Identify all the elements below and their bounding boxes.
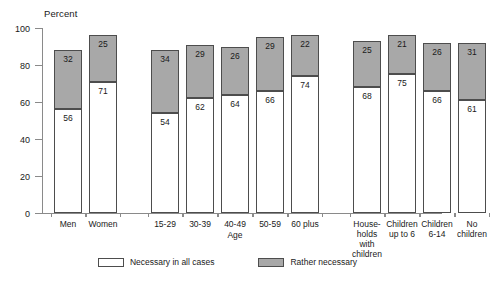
legend-swatch-icon	[258, 258, 284, 267]
bar-value-label: 66	[265, 92, 274, 105]
x-tick	[455, 213, 456, 217]
y-tick: 80	[35, 65, 42, 66]
bar: 6626	[423, 43, 451, 213]
bar-segment-rather-necessary: 32	[54, 50, 82, 109]
bar-segment-rather-necessary: 25	[89, 35, 117, 81]
x-axis-label: 60 plus	[275, 219, 335, 229]
bar: 5632	[54, 50, 82, 213]
x-tick	[183, 213, 184, 217]
bar-segment-necessary-in-all-cases: 56	[54, 109, 82, 213]
bar-segment-rather-necessary: 22	[291, 35, 319, 76]
x-tick	[322, 213, 323, 217]
y-axis-title: Percent	[44, 8, 77, 19]
bar-segment-necessary-in-all-cases: 54	[151, 113, 179, 213]
x-tick	[218, 213, 219, 217]
bar-segment-rather-necessary: 29	[186, 45, 214, 99]
bar-value-label: 62	[195, 99, 204, 112]
x-tick	[86, 213, 87, 217]
bar: 6131	[458, 43, 486, 213]
y-tick-label: 60	[20, 98, 30, 107]
chart-legend: Necessary in all casesRather necessary	[0, 258, 455, 267]
x-axis-label: No children	[442, 219, 494, 239]
x-axis-label: Women	[73, 219, 133, 229]
legend-item: Necessary in all cases	[98, 258, 215, 267]
bar: 6229	[186, 45, 214, 213]
bar-value-label: 66	[432, 92, 441, 105]
x-tick	[148, 213, 149, 217]
bar-value-label: 64	[230, 96, 239, 109]
bar-value-label: 25	[98, 36, 107, 49]
y-tick: 60	[35, 102, 42, 103]
bar: 6825	[353, 41, 381, 213]
bar: 7521	[388, 35, 416, 213]
x-tick	[385, 213, 386, 217]
legend-item: Rather necessary	[258, 258, 357, 267]
bar-value-label: 29	[265, 38, 274, 51]
y-tick-label: 40	[20, 135, 30, 144]
x-tick	[253, 213, 254, 217]
bar-value-label: 71	[98, 83, 107, 96]
x-axis-line	[42, 213, 442, 214]
y-tick-label: 20	[20, 172, 30, 181]
y-axis-line	[42, 28, 43, 213]
bar-value-label: 61	[467, 101, 476, 114]
bar: 6629	[256, 37, 284, 213]
bar-value-label: 26	[432, 44, 441, 57]
bar-value-label: 31	[467, 44, 476, 57]
x-axis-group-caption: Age	[205, 230, 265, 240]
bar-segment-rather-necessary: 31	[458, 43, 486, 100]
bar-value-label: 54	[160, 114, 169, 127]
bar-value-label: 68	[362, 88, 371, 101]
bar: 7125	[89, 35, 117, 213]
y-tick-label: 80	[20, 61, 30, 70]
bar-value-label: 34	[160, 51, 169, 64]
bar-value-label: 32	[63, 51, 72, 64]
x-tick	[489, 213, 490, 217]
bar-segment-rather-necessary: 26	[423, 43, 451, 91]
y-tick: 40	[35, 139, 42, 140]
bar-value-label: 26	[230, 48, 239, 61]
bar-value-label: 25	[362, 42, 371, 55]
bar-segment-necessary-in-all-cases: 66	[423, 91, 451, 213]
y-tick-label: 100	[15, 24, 30, 33]
x-tick	[350, 213, 351, 217]
legend-swatch-icon	[98, 258, 124, 267]
bar-segment-rather-necessary: 25	[353, 41, 381, 87]
y-tick: 0	[35, 213, 42, 214]
bar-value-label: 74	[300, 77, 309, 90]
bar-segment-necessary-in-all-cases: 68	[353, 87, 381, 213]
bar-segment-necessary-in-all-cases: 62	[186, 98, 214, 213]
legend-label: Rather necessary	[290, 258, 357, 267]
bar: 5434	[151, 50, 179, 213]
x-tick	[120, 213, 121, 217]
bar-value-label: 22	[300, 36, 309, 49]
x-tick	[51, 213, 52, 217]
bar: 6426	[221, 47, 249, 214]
x-tick	[288, 213, 289, 217]
bar-segment-rather-necessary: 21	[388, 35, 416, 74]
bar-segment-rather-necessary: 34	[151, 50, 179, 113]
bar-segment-necessary-in-all-cases: 66	[256, 91, 284, 213]
bar-segment-necessary-in-all-cases: 61	[458, 100, 486, 213]
bar-value-label: 75	[397, 75, 406, 88]
legend-label: Necessary in all cases	[130, 258, 215, 267]
plot-area: 020406080100 563271255434622964266629742…	[42, 28, 442, 213]
bar-segment-necessary-in-all-cases: 71	[89, 82, 117, 213]
bar-value-label: 21	[397, 36, 406, 49]
bar-segment-necessary-in-all-cases: 75	[388, 74, 416, 213]
bar-segment-necessary-in-all-cases: 64	[221, 95, 249, 213]
bar-segment-rather-necessary: 29	[256, 37, 284, 91]
bar-value-label: 29	[195, 46, 204, 59]
y-tick: 20	[35, 176, 42, 177]
bar-segment-necessary-in-all-cases: 74	[291, 76, 319, 213]
bar-value-label: 56	[63, 110, 72, 123]
bar: 7422	[291, 35, 319, 213]
y-tick-label: 0	[25, 209, 30, 218]
bar-segment-rather-necessary: 26	[221, 47, 249, 95]
y-tick: 100	[35, 28, 42, 29]
x-tick	[420, 213, 421, 217]
